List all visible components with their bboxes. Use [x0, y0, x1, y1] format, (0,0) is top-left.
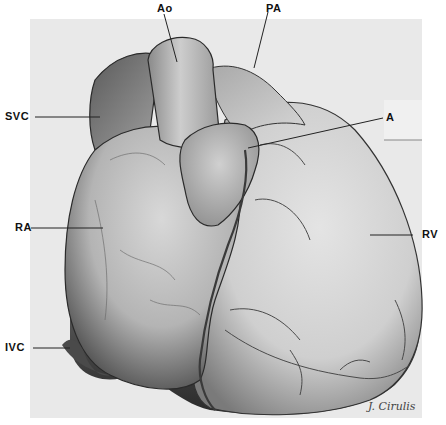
label-inferior-vena-cava: IVC: [5, 341, 25, 353]
pa-leader: [254, 12, 268, 68]
artist-signature: J. Cirulis: [368, 400, 416, 413]
label-right-atrium: RA: [15, 221, 32, 233]
heart-drawing: [0, 0, 446, 425]
label-auricle: A: [386, 111, 394, 123]
label-aorta: Ao: [157, 2, 173, 14]
label-superior-vena-cava: SVC: [5, 110, 29, 122]
heart-illustration: Ao PA SVC A RA RV IVC J. Cirulis: [0, 0, 446, 425]
label-right-ventricle: RV: [422, 228, 438, 240]
label-pulmonary-artery: PA: [266, 2, 281, 14]
